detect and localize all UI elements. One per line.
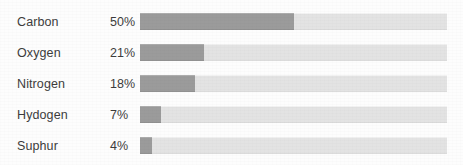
bar-track xyxy=(140,137,447,154)
chart-row: Oxygen 21% xyxy=(0,44,463,61)
bar-fill xyxy=(140,106,161,123)
bar-fill xyxy=(140,44,204,61)
category-label: Suphur xyxy=(17,139,58,153)
bar-fill xyxy=(140,13,294,30)
category-label: Carbon xyxy=(17,15,59,29)
category-label: Oxygen xyxy=(17,46,61,60)
bar-track xyxy=(140,106,447,123)
bar-track xyxy=(140,75,447,92)
category-label: Nitrogen xyxy=(17,77,65,91)
horizontal-bar-chart: Carbon 50% Oxygen 21% Nitrogen 18% Hydog… xyxy=(0,0,463,165)
value-label: 18% xyxy=(110,77,135,91)
category-label: Hydogen xyxy=(17,108,68,122)
value-label: 50% xyxy=(110,15,135,29)
value-label: 4% xyxy=(110,139,128,153)
chart-row: Carbon 50% xyxy=(0,13,463,30)
chart-row: Hydogen 7% xyxy=(0,106,463,123)
bar-fill xyxy=(140,137,152,154)
value-label: 7% xyxy=(110,108,128,122)
bar-track xyxy=(140,44,447,61)
value-label: 21% xyxy=(110,46,135,60)
chart-row: Suphur 4% xyxy=(0,137,463,154)
bar-track xyxy=(140,13,447,30)
bar-fill xyxy=(140,75,195,92)
chart-row: Nitrogen 18% xyxy=(0,75,463,92)
